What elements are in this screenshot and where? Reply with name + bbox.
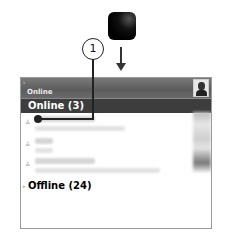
group-header-online[interactable]: Online (3) xyxy=(21,98,211,113)
expand-arrow-icon: ▸ xyxy=(23,183,26,189)
contact-status-blurred xyxy=(35,168,160,173)
status-title: Online xyxy=(27,88,52,96)
avatar-head xyxy=(198,82,205,90)
blackberry-key-icon xyxy=(108,12,136,40)
callout-dot xyxy=(34,115,42,123)
contact-status-blurred xyxy=(35,148,53,153)
signal-indicator: ♭ xyxy=(23,79,25,85)
contact-item[interactable]: ♙ xyxy=(21,136,191,158)
contact-item[interactable]: ♙ xyxy=(21,156,191,178)
contact-icon: ♙ xyxy=(25,160,30,167)
device-screen: ♭ Online Online (3) ♙ ♙ ♙ ▸ Offline (24) xyxy=(20,77,212,229)
contact-status-blurred xyxy=(35,126,125,131)
avatar-body xyxy=(196,90,207,96)
group-label: Offline (24) xyxy=(28,179,92,193)
contact-name-blurred xyxy=(35,158,95,164)
contact-name-blurred xyxy=(35,138,53,144)
contact-icon: ♙ xyxy=(25,140,30,147)
arrow-head-icon xyxy=(116,63,126,71)
contact-icon: ♙ xyxy=(25,118,30,125)
callout-line xyxy=(38,118,94,120)
group-header-offline[interactable]: ▸ Offline (24) xyxy=(21,179,211,193)
callout-number: 1 xyxy=(82,38,104,60)
contact-thumbnails-blurred xyxy=(193,112,211,172)
avatar[interactable] xyxy=(193,79,209,97)
group-label: Online (3) xyxy=(28,99,84,113)
title-bar: ♭ Online xyxy=(21,78,211,98)
callout-line xyxy=(92,59,94,119)
